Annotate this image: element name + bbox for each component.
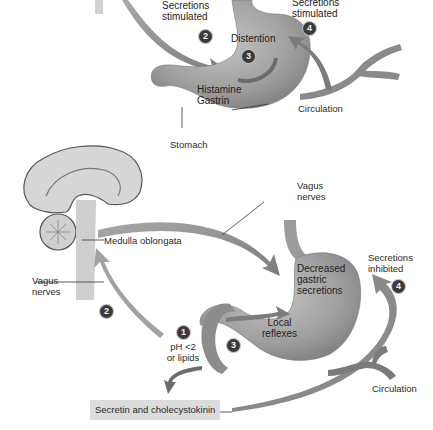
brainstem [76, 200, 96, 300]
label-stomach: Stomach [170, 139, 208, 150]
step-badge-3-top: 3 [242, 50, 255, 63]
ph-to-medulla-arrow [94, 248, 164, 338]
step-badge-1: 1 [177, 326, 190, 339]
label-histamine-gastrin: Histamine Gastrin [197, 84, 241, 106]
label-circulation-bottom: Circulation [372, 383, 417, 394]
label-vagus-nerves-left: Vagus nerves [32, 275, 61, 297]
step-badge-3-bottom: 3 [227, 339, 240, 352]
vagus-inhibition-arrow [98, 222, 280, 276]
step-badge-2-top: 2 [199, 30, 212, 43]
label-vagus-nerves-top: Vagus nerves [297, 180, 326, 202]
top-nerve-fragment [95, 0, 103, 14]
gastric-secretion-diagram: Secretions stimulated 2 Secretions stimu… [0, 0, 433, 430]
label-medulla-oblongata: Medulla oblongata [104, 235, 182, 246]
step-badge-4-bottom: 4 [392, 280, 405, 293]
label-secretions-inhibited: Secretions inhibited [368, 252, 413, 274]
label-circulation-top: Circulation [298, 103, 343, 114]
label-distention: Distention [231, 33, 275, 44]
step-badge-4-top: 4 [303, 22, 316, 35]
diagram-artwork [0, 0, 433, 430]
label-decreased-gastric-secretions: Decreased gastric secretions [297, 263, 345, 296]
label-secretin-cholecystokinin: Secretin and cholecystokinin [90, 400, 220, 420]
label-ph-or-lipids: pH <2 or lipids [162, 341, 204, 363]
label-secretions-stimulated-right: Secretions stimulated [292, 0, 339, 19]
label-local-reflexes: Local reflexes [262, 317, 297, 339]
label-secretions-stimulated-left: Secretions stimulated [162, 0, 209, 22]
step-badge-2-bottom: 2 [100, 305, 113, 318]
